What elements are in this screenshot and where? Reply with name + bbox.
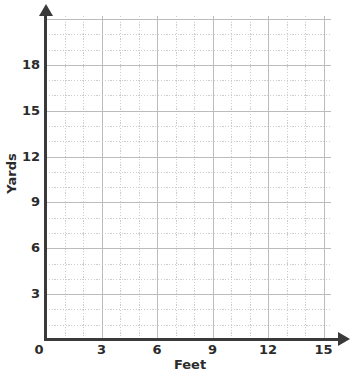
- y-tick-label: 3: [2, 287, 40, 301]
- y-axis-line: [44, 14, 47, 341]
- coordinate-grid-chart: 03691215 369121518 Feet Yards: [0, 0, 356, 373]
- gridline-horizontal-major: [46, 202, 331, 203]
- y-tick-label: 15: [2, 104, 40, 118]
- y-axis-arrow-icon: [39, 4, 53, 16]
- y-axis-title: Yards: [4, 134, 19, 214]
- x-tick-label: 6: [137, 342, 177, 358]
- plot-area: [46, 16, 331, 340]
- x-tick-label: 15: [304, 342, 344, 358]
- gridline-horizontal-major: [46, 294, 331, 295]
- gridline-horizontal-major: [46, 65, 331, 66]
- x-tick-label: 9: [193, 342, 233, 358]
- x-tick-label: 0: [19, 342, 59, 358]
- x-tick-label: 12: [248, 342, 288, 358]
- gridline-horizontal-major: [46, 248, 331, 249]
- y-tick-label: 6: [2, 241, 40, 255]
- gridline-horizontal-major: [46, 157, 331, 158]
- x-axis-title: Feet: [140, 357, 240, 372]
- gridline-horizontal-major: [46, 19, 331, 20]
- gridline-horizontal-major: [46, 111, 331, 112]
- x-axis-line: [44, 338, 340, 341]
- y-tick-label: 18: [2, 58, 40, 72]
- x-tick-label: 3: [82, 342, 122, 358]
